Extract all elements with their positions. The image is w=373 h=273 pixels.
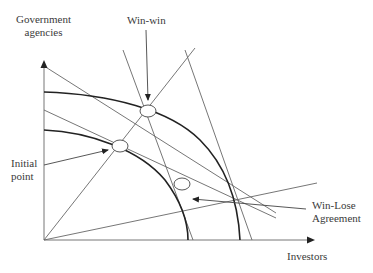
line-ray-lower: [44, 183, 317, 240]
win-win-arrow: [146, 30, 148, 100]
win-lose-label-line2: Agreement: [312, 212, 361, 225]
y-axis-label-line1: Government: [16, 13, 71, 26]
win-lose-point: [174, 178, 190, 190]
win-win-point: [140, 105, 156, 117]
line-top-diagonal: [44, 66, 276, 213]
win-win-label: Win-win: [127, 14, 166, 27]
initial-label-line2: point: [11, 170, 37, 183]
initial-point: [112, 140, 128, 152]
initial-point-label: Initial point: [11, 157, 37, 183]
negotiation-diagram: [0, 0, 373, 273]
line-mid-diagonal: [44, 110, 276, 218]
win-lose-label-line1: Win-Lose: [312, 199, 361, 212]
initial-label-line1: Initial: [11, 157, 37, 170]
y-axis-label-line2: agencies: [16, 26, 71, 39]
line-steep-right: [185, 50, 252, 240]
x-axis-arrow-icon: [307, 237, 315, 244]
y-axis-label: Government agencies: [16, 13, 71, 39]
x-axis-label: Investors: [287, 250, 327, 263]
win-lose-arrow: [193, 199, 306, 209]
initial-arrow: [44, 150, 108, 165]
y-axis-arrow-icon: [41, 60, 48, 68]
win-lose-label: Win-Lose Agreement: [312, 199, 361, 225]
